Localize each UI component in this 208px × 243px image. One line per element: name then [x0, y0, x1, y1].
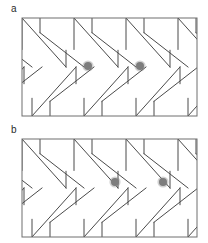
- tooth-edge: [84, 188, 128, 237]
- tooth-edge: [188, 188, 208, 237]
- tooth-edge: [32, 188, 76, 237]
- tooth-inner-edge: [206, 67, 208, 101]
- panel-a-diagram: [0, 0, 208, 121]
- tooth-inner-edge: [0, 188, 42, 222]
- marker-dot-2: [159, 178, 167, 186]
- tooth-edge: [188, 67, 208, 116]
- tooth-edge: [22, 18, 66, 67]
- lattice-group: [0, 139, 208, 237]
- tooth-inner-edge: [0, 154, 32, 188]
- tooth-inner-edge: [206, 188, 208, 222]
- tooth-edge: [32, 67, 76, 116]
- tooth-edge: [178, 139, 208, 188]
- tooth-edge: [74, 18, 118, 67]
- tooth-inner-edge: [0, 33, 32, 67]
- tooth-edge: [22, 139, 66, 188]
- tooth-edge: [178, 18, 208, 67]
- tooth-inner-edge: [196, 33, 208, 67]
- panel-frame: [22, 139, 197, 237]
- marker-dot-1: [111, 178, 119, 186]
- tooth-edge: [0, 188, 24, 237]
- tooth-edge: [0, 139, 14, 188]
- tooth-inner-edge: [196, 154, 208, 188]
- tooth-edge: [0, 67, 24, 116]
- panel-a: a: [0, 0, 208, 121]
- marker-dot-2: [136, 62, 144, 70]
- marker-dot-1: [84, 62, 92, 70]
- figure-container: a b: [0, 0, 208, 243]
- tooth-edge: [126, 18, 170, 67]
- tooth-edge: [136, 67, 180, 116]
- tooth-edge: [136, 188, 180, 237]
- tooth-inner-edge: [0, 67, 42, 101]
- tooth-edge: [0, 18, 14, 67]
- tooth-edge: [84, 67, 128, 116]
- panel-frame: [22, 18, 197, 116]
- panel-b: b: [0, 121, 208, 242]
- lattice-group: [0, 18, 208, 116]
- panel-b-diagram: [0, 121, 208, 242]
